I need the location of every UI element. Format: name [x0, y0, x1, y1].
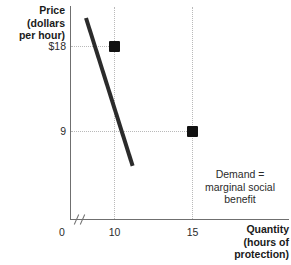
y-axis-line — [70, 6, 71, 220]
y-tick-label-18: $18 — [41, 40, 66, 52]
x-tick-label-15: 15 — [184, 226, 201, 238]
demand-curve-label-line-2: marginal social — [190, 181, 290, 194]
y-tick-label-9: 9 — [41, 125, 66, 137]
x-axis-title-line-3: protection) — [179, 248, 289, 261]
data-point-10-18 — [109, 41, 120, 52]
y-axis-title: Price (dollars per hour) — [2, 4, 65, 42]
x-tick-label-10: 10 — [106, 226, 123, 238]
demand-curve-label: Demand = marginal social benefit — [190, 168, 290, 206]
demand-curve-label-line-1: Demand = — [190, 168, 290, 181]
demand-curve-stroke — [84, 17, 134, 166]
y-axis-title-line-1: Price (dollars — [2, 4, 65, 29]
demand-curve-chart: Price (dollars per hour) Quantity (hours… — [0, 0, 291, 265]
data-point-15-9 — [187, 126, 198, 137]
demand-curve-line — [84, 17, 134, 166]
demand-curve-label-line-3: benefit — [190, 193, 290, 206]
gridline-y-9 — [71, 131, 193, 132]
x-axis-line — [70, 219, 289, 220]
x-tick-label-0: 0 — [56, 226, 68, 238]
